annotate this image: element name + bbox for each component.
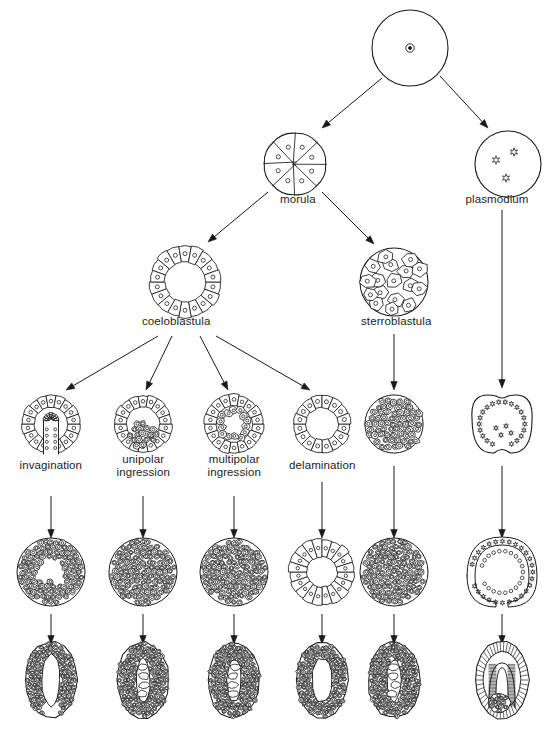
cell-nucleus <box>480 564 484 568</box>
arrow-shaft <box>327 78 382 124</box>
cell <box>76 559 82 565</box>
cell <box>136 436 142 443</box>
shape-gastrula-plasmodium-line <box>467 537 537 607</box>
lumen-cell <box>228 691 239 698</box>
arrow-coeloblastula-to-delamination <box>216 336 310 390</box>
cell-nucleus <box>520 564 524 568</box>
cell-nucleus <box>487 586 491 590</box>
label-sterroblastula: sterroblastula <box>361 315 431 329</box>
arrow-coeloblastula-to-invagination <box>66 336 158 390</box>
cell <box>371 432 379 439</box>
cell-nucleus <box>487 554 491 558</box>
cell <box>396 442 403 449</box>
arrow-shaft <box>200 336 225 384</box>
arrow-plasmodium-mid-down <box>499 466 505 538</box>
plasmodium-membrane <box>475 131 541 197</box>
cell-nucleus <box>483 558 487 562</box>
label-delamination: delamination <box>289 459 355 473</box>
arrow-unipolar-down <box>140 496 146 538</box>
shape-gastrulation-mode-invagination <box>22 395 81 454</box>
cell-nucleus <box>503 549 507 553</box>
cell-nucleus <box>503 591 507 595</box>
cell <box>381 414 388 420</box>
arrow-shaft <box>322 192 369 239</box>
arrow-zygote-to-plasmodium <box>440 76 488 128</box>
shape-larva-delamination <box>296 643 349 719</box>
cell <box>139 430 146 436</box>
cell <box>32 570 37 576</box>
shape-gastrula-sterroblastula-line <box>360 538 428 606</box>
larva-lumen <box>312 659 331 702</box>
c-layer-outline <box>467 537 537 607</box>
arrow-invagination-larva <box>48 614 54 644</box>
cell-nucleus <box>509 551 513 555</box>
cell <box>140 560 146 565</box>
label-invagination: invagination <box>20 459 83 473</box>
shape-larva-multipolar-ingression <box>208 642 261 719</box>
cell-nucleus <box>518 581 522 585</box>
cell-nucleus <box>521 570 525 574</box>
cell <box>112 568 118 574</box>
cell <box>26 685 31 690</box>
cell-nucleus <box>514 586 518 590</box>
arrow-head <box>66 383 75 390</box>
cell <box>416 410 423 417</box>
cell <box>418 569 424 575</box>
label-multipolar-ingression: multipolar ingression <box>208 453 261 480</box>
cell-nucleus <box>492 551 496 555</box>
cell <box>245 653 250 658</box>
arrow-delamination-larva <box>319 614 325 644</box>
label-morula: morula <box>280 193 316 207</box>
arrow-shaft <box>216 336 304 387</box>
shape-gastrula-invagination <box>17 538 85 606</box>
cell-nucleus <box>498 591 502 595</box>
cell <box>307 673 312 678</box>
cell <box>136 565 142 570</box>
arrow-sterroblastula-mid-down <box>391 466 397 538</box>
shape-gastrulation-mode-unipolar-ingression <box>114 395 172 452</box>
arrow-head <box>301 383 310 390</box>
stage-coeloblastula <box>149 246 221 319</box>
shape-gastrulation-mode-multipolar-ingression <box>204 394 264 454</box>
arrow-shaft <box>149 336 172 384</box>
cell-nucleus <box>514 554 518 558</box>
zygote-nucleolus <box>409 47 412 50</box>
ingressing-cell <box>216 418 224 425</box>
diagram-canvas: morulaplasmodiumcoeloblastulasterroblast… <box>0 0 553 746</box>
label-unipolar-ingression: unipolar ingression <box>117 453 170 480</box>
arrow-zygote-to-morula <box>322 78 382 128</box>
arrow-multipolar-larva <box>231 614 237 644</box>
cell-nucleus <box>509 589 513 593</box>
label-coeloblastula: coeloblastula <box>142 315 210 329</box>
arrow-morula-to-sterroblastula <box>322 192 374 244</box>
arrow-plasmodium-larva <box>499 614 505 644</box>
embryo-development-svg <box>0 0 553 746</box>
cell <box>38 560 44 566</box>
arrow-head <box>146 381 153 390</box>
cell-nucleus <box>483 582 487 586</box>
arrow-shaft <box>440 76 484 123</box>
cell <box>128 568 134 574</box>
shape-gastrulation-mode-plasmodium-line <box>472 395 532 453</box>
cell <box>400 653 405 658</box>
arrow-head <box>221 381 228 390</box>
stage-plasmodium <box>475 131 541 197</box>
arrow-delamination-down <box>319 482 325 538</box>
arrow-invagination-down <box>48 496 54 538</box>
shape-larva-sterroblastula-line <box>368 642 421 719</box>
shape-larva-invagination <box>25 642 77 718</box>
cell <box>260 579 265 585</box>
label-plasmodium: plasmodium <box>466 193 529 207</box>
stage-morula <box>264 133 327 196</box>
arrow-shaft <box>213 192 268 238</box>
arrow-coeloblastula-to-multipolar <box>200 336 228 390</box>
arrow-head <box>48 530 54 539</box>
shape-gastrula-delamination <box>288 538 354 605</box>
arrow-head <box>391 530 397 539</box>
lumen-cell <box>387 690 397 697</box>
arrow-head <box>391 382 397 391</box>
arrow-head <box>499 380 505 389</box>
cell <box>310 710 315 715</box>
arrow-sterroblastula-larva <box>391 614 397 644</box>
cell <box>389 438 395 444</box>
